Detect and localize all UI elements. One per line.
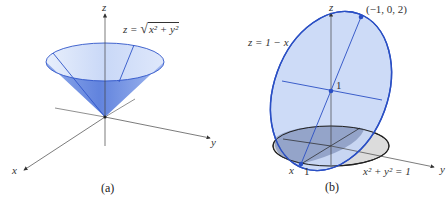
point-label-z1: 1 <box>336 80 342 91</box>
point-center <box>329 89 334 94</box>
cylinder-equation: x² + y² = 1 <box>363 166 411 177</box>
x-axis-label-b: x <box>289 165 294 176</box>
point-label-x1: 1 <box>304 166 310 177</box>
x-axis-label-a: x <box>12 165 17 176</box>
point-top <box>359 15 364 20</box>
cone-equation-radicand: x² + y² <box>148 22 179 35</box>
z-axis-label-a: z <box>102 2 106 13</box>
caption-b: (b) <box>325 181 339 193</box>
y-axis-label-a: y <box>211 137 216 148</box>
caption-a: (a) <box>101 182 114 194</box>
x-axis-a <box>24 117 105 170</box>
y-axis-label-b: y <box>440 164 445 175</box>
point-label-top: (−1, 0, 2) <box>366 4 407 15</box>
y-axis-a <box>105 117 210 138</box>
cone-equation: z = √x² + y² <box>123 22 179 36</box>
cone-equation-lhs: z = <box>123 23 137 35</box>
panel-b <box>249 0 434 188</box>
plane-equation: z = 1 − x <box>248 37 289 48</box>
point-x1 <box>299 162 304 167</box>
sqrt-icon: √ <box>140 21 148 36</box>
panel-a <box>24 14 210 170</box>
z-axis-label-b: z <box>329 2 333 13</box>
